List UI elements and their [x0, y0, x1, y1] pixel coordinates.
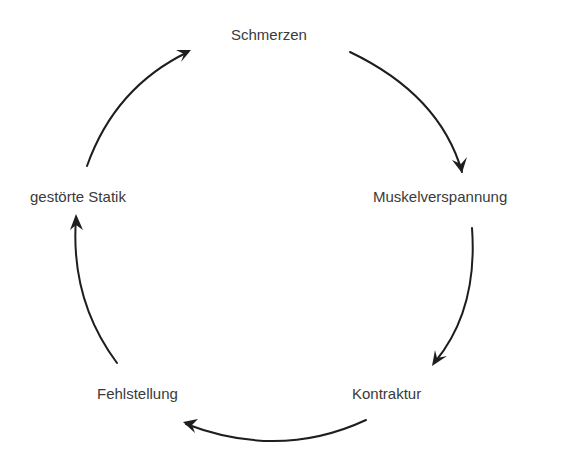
node-schmerzen: Schmerzen [231, 26, 307, 44]
vicious-cycle-diagram: Schmerzen Muskelverspannung Kontraktur F… [0, 0, 565, 464]
node-muskelverspannung: Muskelverspannung [373, 188, 507, 206]
node-kontraktur: Kontraktur [352, 385, 421, 403]
arrow-fehlstellung-to-gestoerte-statik [70, 214, 117, 363]
arrow-kontraktur-to-fehlstellung [183, 419, 366, 441]
node-fehlstellung: Fehlstellung [97, 385, 178, 403]
cycle-arrows [0, 0, 565, 464]
arrow-muskelverspannung-to-kontraktur [432, 228, 473, 366]
node-gestoerte-statik: gestörte Statik [30, 188, 126, 206]
arrow-schmerzen-to-muskelverspannung [350, 52, 467, 173]
arrow-gestoerte-statik-to-schmerzen [87, 50, 191, 166]
